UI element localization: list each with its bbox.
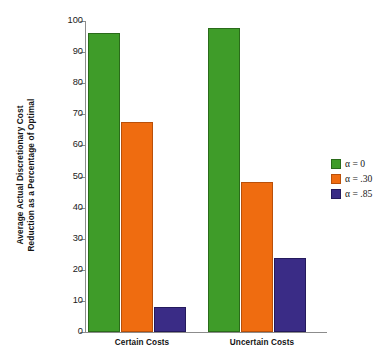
y-axis-title: Average Actual Discretionary Cost Reduct… [8,16,44,334]
bar-uncertain-costs-series-1 [241,182,273,332]
legend-swatch-icon-alpha-85 [331,189,341,199]
y-axis-title-line-1: Average Actual Discretionary Cost [15,105,25,244]
y-axis-title-line-2: Reduction as a Percentage of Optimal [26,99,36,252]
bar-certain-costs-series-2 [154,307,186,332]
plot-area: 0102030405060708090100 [86,21,326,332]
x-tick-label-certain-costs: Certain Costs [82,338,202,347]
x-axis-line [85,332,327,333]
y-tick-label: 100 [57,15,83,26]
y-axis-title-text: Average Actual Discretionary Cost Reduct… [15,99,38,252]
y-tick-label: 0 [57,326,83,337]
y-tick-label: 30 [57,233,83,244]
bar-uncertain-costs-series-2 [274,258,306,332]
x-tick-label-uncertain-costs: Uncertain Costs [202,338,322,347]
bar-uncertain-costs-series-0 [208,28,240,332]
bar-certain-costs-series-1 [121,122,153,332]
y-tick-label: 10 [57,295,83,306]
bar-group-certain-costs [86,21,200,332]
chart-legend: α = 0 α = .30 α = .85 [331,156,387,201]
y-tick-label: 90 [57,46,83,57]
bar-chart-figure: Average Actual Discretionary Cost Reduct… [0,0,389,361]
legend-item-alpha-0: α = 0 [331,156,387,171]
y-tick-label: 70 [57,108,83,119]
y-tick-label: 20 [57,264,83,275]
legend-label-alpha-30: α = .30 [345,173,372,184]
bar-certain-costs-series-0 [88,33,120,332]
y-tick-label: 60 [57,139,83,150]
bar-group-uncertain-costs [206,21,320,332]
y-tick-label: 50 [57,171,83,182]
y-tick-label: 40 [57,202,83,213]
legend-item-alpha-85: α = .85 [331,186,387,201]
legend-swatch-icon-alpha-0 [331,159,341,169]
y-tick-label: 80 [57,77,83,88]
legend-item-alpha-30: α = .30 [331,171,387,186]
legend-label-alpha-85: α = .85 [345,188,372,199]
legend-label-alpha-0: α = 0 [345,158,365,169]
legend-swatch-icon-alpha-30 [331,174,341,184]
